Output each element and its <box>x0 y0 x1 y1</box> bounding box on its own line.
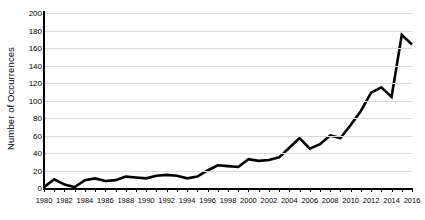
x-axis-tick-label: 1986 <box>97 196 114 205</box>
y-axis-tick-label: 180 <box>29 26 42 35</box>
x-axis-tick <box>75 188 76 192</box>
x-axis-tick <box>361 188 362 192</box>
x-axis-tick-label: 1982 <box>56 196 73 205</box>
gridline <box>44 31 412 32</box>
x-axis-tick <box>218 188 219 192</box>
gridline <box>44 66 412 67</box>
x-axis-tick-label: 2012 <box>363 196 380 205</box>
x-axis-tick <box>64 188 65 192</box>
plot-area <box>44 13 412 188</box>
x-axis-tick <box>269 188 270 192</box>
x-axis-tick-label: 2008 <box>322 196 339 205</box>
x-axis-tick <box>351 188 352 192</box>
gridline <box>44 13 412 14</box>
line-series-path <box>44 35 412 187</box>
x-axis-tick <box>95 188 96 192</box>
x-axis-tick <box>136 188 137 192</box>
x-axis-tick <box>330 188 331 192</box>
x-axis-tick-label: 2014 <box>383 196 400 205</box>
y-axis-tick-label: 140 <box>29 61 42 70</box>
y-axis-tick-label: 100 <box>29 96 42 105</box>
x-axis-tick <box>381 188 382 192</box>
y-axis-tick-label: 60 <box>33 131 42 140</box>
gridline <box>44 153 412 154</box>
y-axis-tick-label: 160 <box>29 44 42 53</box>
x-axis-tick <box>187 188 188 192</box>
y-axis-tick-label: 120 <box>29 79 42 88</box>
x-axis-tick-label: 2006 <box>301 196 318 205</box>
x-axis-tick <box>392 188 393 192</box>
x-axis-tick <box>248 188 249 192</box>
y-axis-tick-label: 80 <box>33 114 42 123</box>
x-axis-tick <box>259 188 260 192</box>
x-axis-tick-label: 2016 <box>404 196 421 205</box>
y-axis-title-wrap: Number of Occurrences <box>0 0 20 196</box>
x-axis-tick <box>54 188 55 192</box>
x-axis-tick-labels: 1980198219841986198819901992199419961998… <box>44 196 412 210</box>
x-axis-tick-label: 1998 <box>220 196 237 205</box>
x-axis-tick <box>197 188 198 192</box>
x-axis-tick <box>238 188 239 192</box>
x-axis-tick-label: 1988 <box>117 196 134 205</box>
x-axis-tick-label: 1990 <box>138 196 155 205</box>
x-axis-tick <box>300 188 301 192</box>
x-axis-tick-label: 2004 <box>281 196 298 205</box>
x-axis-tick <box>208 188 209 192</box>
x-axis-tick <box>116 188 117 192</box>
x-axis-tick-label: 1984 <box>77 196 94 205</box>
y-axis-tick-label: 0 <box>38 184 42 193</box>
x-axis-tick <box>228 188 229 192</box>
x-axis-tick <box>402 188 403 192</box>
y-axis-tick-label: 200 <box>29 9 42 18</box>
x-axis-tick-label: 2000 <box>240 196 257 205</box>
x-axis-tick <box>44 188 45 192</box>
gridline <box>44 171 412 172</box>
x-axis-tick-label: 1996 <box>199 196 216 205</box>
gridline <box>44 83 412 84</box>
x-axis-tick <box>371 188 372 192</box>
gridline <box>44 48 412 49</box>
x-axis-ticks <box>44 188 412 193</box>
x-axis-tick <box>289 188 290 192</box>
x-axis-tick <box>85 188 86 192</box>
gridline <box>44 118 412 119</box>
gridline <box>44 101 412 102</box>
y-axis-tick-labels: 020406080100120140160180200 <box>18 8 42 190</box>
y-axis-tick-label: 20 <box>33 166 42 175</box>
x-axis-tick <box>320 188 321 192</box>
x-axis-tick <box>279 188 280 192</box>
x-axis-tick-label: 2002 <box>261 196 278 205</box>
x-axis-tick <box>167 188 168 192</box>
x-axis-tick-label: 1994 <box>179 196 196 205</box>
x-axis-tick-label: 1980 <box>36 196 53 205</box>
x-axis-tick <box>310 188 311 192</box>
x-axis-tick <box>146 188 147 192</box>
y-axis-line <box>43 11 45 190</box>
x-axis-tick <box>412 188 413 192</box>
y-axis-tick-label: 40 <box>33 149 42 158</box>
chart-container: Number of Occurrences 020406080100120140… <box>0 0 425 220</box>
x-axis-tick <box>126 188 127 192</box>
gridline <box>44 136 412 137</box>
x-axis-tick <box>177 188 178 192</box>
x-axis-tick-label: 2010 <box>342 196 359 205</box>
x-axis-tick <box>105 188 106 192</box>
x-axis-tick <box>340 188 341 192</box>
x-axis-tick <box>156 188 157 192</box>
y-axis-title: Number of Occurrences <box>5 47 16 150</box>
x-axis-tick-label: 1992 <box>158 196 175 205</box>
